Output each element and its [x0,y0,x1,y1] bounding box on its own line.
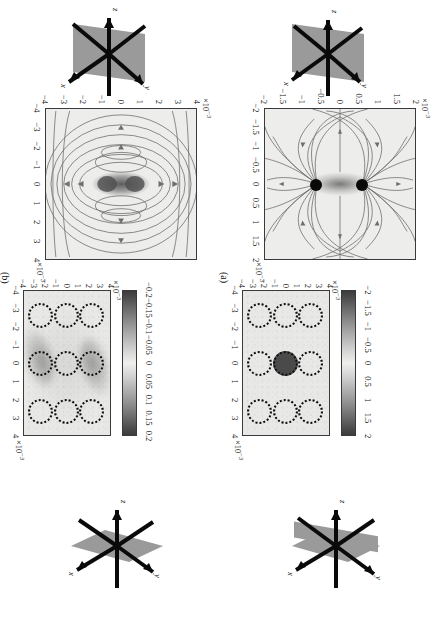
panel-a-stream-yaxis: 2 1.5 1 0.5 0 −0.5 −1 −1.5 −2 [264,78,416,104]
triad-axis-label-x: x [286,572,296,576]
tick: −4 [238,279,247,288]
panel-a-pole-lower [310,179,322,191]
panel-b-grid-x-exponent: ×10−3 [15,440,26,460]
tick: 0 [364,361,373,365]
panel-a-colorbar-ticks: −2 −1.5 −1 −0.5 0 0.5 1 1.5 2 [360,290,372,436]
conductor-circle [298,303,323,328]
tick: 0 [231,361,240,365]
tick: 1 [74,284,83,288]
exponent-power: −3 [206,111,213,118]
panel-b-colorbar [122,290,137,436]
tick: 4 [231,434,240,438]
tick: −1.5 [364,300,373,315]
tick: 0 [12,361,21,365]
tick: −1 [52,279,61,288]
tick: −2 [12,322,21,331]
conductor-circle [298,351,323,376]
panel-b-colorbar-ticks: −0.2 −0.15 −0.1 −0.05 0 0.05 0.1 0.15 0.… [141,290,153,436]
tick: 0 [117,100,126,104]
tick: −0.05 [145,335,154,355]
tick: 3 [231,416,240,420]
triad-axis-label-z: z [119,500,129,503]
tick: −3 [60,95,69,104]
tick: −1 [231,340,240,349]
panel-b-stream-y-exponent: ×10−3 [202,98,213,118]
conductor-circle-active [273,351,298,376]
panel-b-stream-xaxis: −4 −3 −2 −1 0 1 2 3 4 [29,108,41,260]
tick: −2 [231,322,240,331]
tick: 0 [336,100,345,104]
tick: 1 [231,379,240,383]
tick: 3 [315,284,324,288]
exponent-mantissa: ×10 [233,440,243,453]
conductor-circle [28,351,53,376]
tick: −0.1 [145,319,154,334]
tick: −1 [12,340,21,349]
tick: 1 [293,284,302,288]
panel-a-grid-y-exponent: ×10−3 [331,280,342,300]
triad-axis-label-z: z [111,8,121,11]
conductor-circle [247,351,272,376]
figure-canvas: z y x [0,0,438,618]
tick: −1 [252,141,261,150]
exponent-mantissa: ×10 [14,440,24,453]
conductor-circle [28,303,53,328]
tick: 1 [12,379,21,383]
exponent-mantissa: ×10 [420,98,430,111]
tick: −3 [231,303,240,312]
tick: −2 [33,141,42,150]
tick: 0 [63,284,72,288]
panel-b-streamline-plot [45,108,197,260]
tick: 2 [304,284,313,288]
tick: −3 [12,303,21,312]
tick: −2 [364,285,373,294]
tick: 2 [85,284,94,288]
tick: −0.2 [145,282,154,297]
tick: 0.5 [355,93,364,104]
conductor-circle [54,303,79,328]
conductor-circle [28,399,53,424]
conductor-circle [247,303,272,328]
tick: −3 [30,279,39,288]
tick: 1 [374,100,383,104]
conductor-circle [54,351,79,376]
tick: −4 [41,95,50,104]
conductor-circle [79,303,104,328]
exponent-mantissa: ×10 [201,98,211,111]
panel-label-a: (a) [219,272,230,283]
tick: −0.5 [252,157,261,172]
tick: 0.5 [364,376,373,387]
conductor-circle [273,303,298,328]
tick: −1.5 [279,89,288,104]
tick: 0 [145,361,154,365]
tick: −1 [364,322,373,331]
tick: −1 [298,95,307,104]
tick: −2 [252,103,261,112]
tick: 0 [33,182,42,186]
triad-axis-label-y: y [153,574,163,578]
panel-a-grid-x-exponent: ×10−3 [234,440,245,460]
tick: −1 [33,160,42,169]
panel-a-streamline-plot [264,108,416,260]
tick: −4 [19,279,28,288]
tick: −1 [98,95,107,104]
conductor-circle [247,399,272,424]
tick: 4 [193,100,202,104]
panel-a-colorbar [341,290,356,436]
tick: 3 [33,239,42,243]
tick: 2 [33,220,42,224]
tick: 4 [12,434,21,438]
axis-triad-panel-b-right: z y x [65,500,169,592]
tick: −0.15 [145,298,154,318]
conductor-circle [79,399,104,424]
tick: −2 [41,279,50,288]
tick: 0.1 [145,395,154,406]
tick: 0.2 [145,431,154,442]
panel-b-grid-yaxis: 4 3 2 1 0 −1 −2 −3 −4 [23,262,111,288]
tick: 3 [12,416,21,420]
conductor-circle [54,399,79,424]
tick: 1.5 [252,236,261,247]
tick: −0.5 [317,89,326,104]
panel-a-stream-y-exponent: ×10−3 [421,98,432,118]
panel-b-stream-yaxis: 4 3 2 1 0 −1 −2 −3 −4 [45,78,197,104]
